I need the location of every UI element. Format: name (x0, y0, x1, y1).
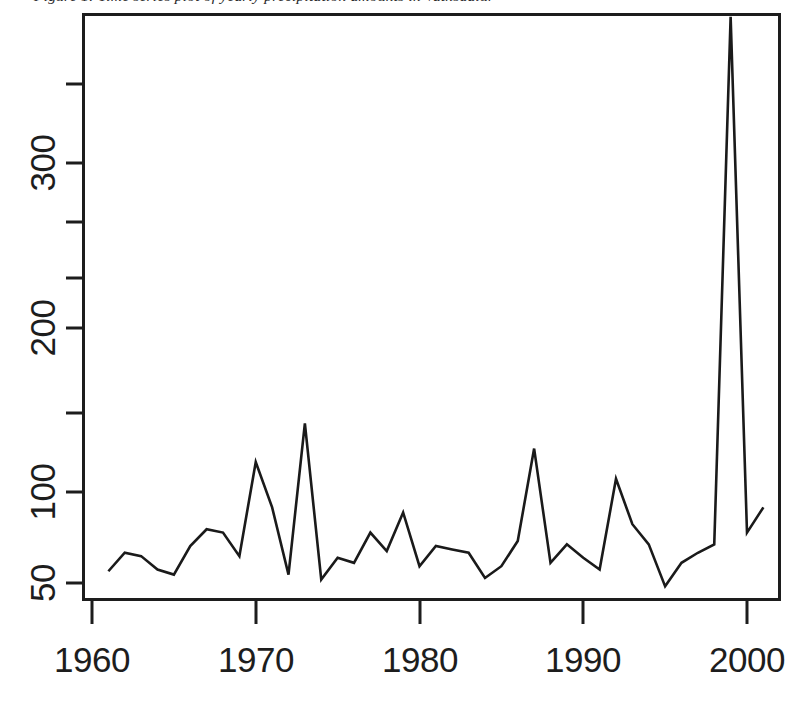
y-axis-tick-labels: 300 200 100 50 (23, 135, 62, 602)
x-tick-label-1980: 1980 (382, 640, 458, 679)
y-axis-ticks (66, 84, 84, 583)
plot-frame-box (84, 15, 780, 600)
y-tick-label-50: 50 (23, 564, 62, 602)
x-tick-label-2000: 2000 (709, 640, 785, 679)
y-tick-label-300: 300 (23, 135, 62, 192)
x-axis-tick-labels: 1960 1970 1980 1990 2000 (54, 640, 785, 679)
x-axis-ticks (92, 600, 747, 624)
y-tick-label-200: 200 (23, 300, 62, 357)
precipitation-series-line (108, 17, 763, 587)
x-tick-label-1990: 1990 (545, 640, 621, 679)
y-tick-label-100: 100 (23, 464, 62, 521)
precipitation-line-chart: 300 200 100 50 1960 1970 1980 1990 2000 (0, 0, 796, 704)
figure-panel: Figure 1: Time series plot of yearly pre… (0, 0, 796, 704)
x-tick-label-1970: 1970 (218, 640, 294, 679)
x-tick-label-1960: 1960 (54, 640, 130, 679)
